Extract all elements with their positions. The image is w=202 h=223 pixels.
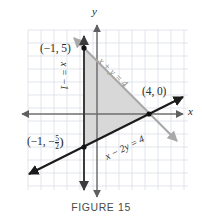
shaded-solution-region	[84, 48, 149, 147]
equation-label-x-equals-minus-1: x = −1	[59, 62, 70, 90]
vertex-point-bottom	[81, 144, 86, 149]
point-label-bottom-prefix: (−1, −	[27, 136, 55, 148]
point-label-minus1-5: (−1, 5)	[40, 43, 71, 55]
point-label-bottom-suffix: )	[59, 135, 63, 149]
point-label-4-0: (4, 0)	[142, 86, 166, 98]
point-label-minus1-minus5over2: (−1, − 5 2 )	[27, 134, 64, 150]
figure-container: (−1, 5) (4, 0) (−1, − 5 2 ) y x x + y = …	[0, 0, 202, 223]
vertex-point-top	[81, 45, 86, 50]
x-axis-label: x	[188, 106, 193, 117]
coordinate-plane-graphic	[0, 0, 202, 223]
vertex-point-right	[146, 111, 151, 116]
y-axis-label: y	[92, 6, 97, 17]
figure-caption: FIGURE 15	[0, 201, 202, 213]
